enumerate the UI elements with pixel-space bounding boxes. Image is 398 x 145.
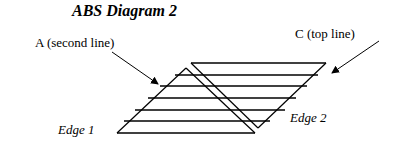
horizontal-lines [117,63,326,133]
parallelogram-right-edge [258,63,326,128]
abs-diagram-figure [0,0,398,145]
triangle-left-edge [117,68,186,133]
arrow-c-icon [332,41,379,73]
parallelogram-left-edge [191,63,258,128]
arrow-a-icon [112,52,158,84]
triangle-right-edge [186,68,255,133]
